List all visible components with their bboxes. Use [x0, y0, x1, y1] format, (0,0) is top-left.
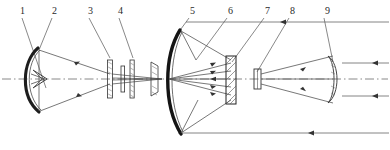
optical-diagram: 1 2 3 4 5 6 7 8 9 — [0, 0, 390, 150]
label-1: 1 — [20, 5, 25, 16]
label-5: 5 — [190, 5, 195, 16]
label-3: 3 — [88, 5, 93, 16]
diagram-background — [0, 0, 390, 150]
label-2: 2 — [52, 5, 57, 16]
diagram-canvas: 1 2 3 4 5 6 7 8 9 — [0, 0, 390, 150]
label-6: 6 — [228, 5, 233, 16]
label-7: 7 — [265, 5, 270, 16]
label-8: 8 — [290, 5, 295, 16]
label-9: 9 — [325, 5, 330, 16]
label-4: 4 — [118, 5, 123, 16]
